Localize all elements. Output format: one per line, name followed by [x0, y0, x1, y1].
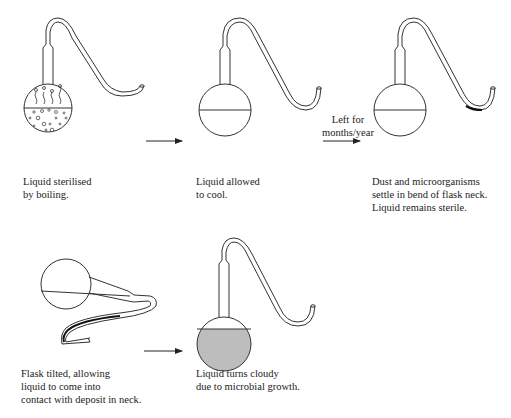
caption-tilt: Flask tilted, allowing liquid to come in… — [21, 367, 141, 406]
flask-cloudy — [197, 238, 315, 374]
caption-cool: Liquid allowed to cool. — [196, 175, 260, 201]
deposit — [466, 106, 482, 110]
caption-line: due to microbial growth. — [196, 380, 300, 393]
arrow-label-line: Left for — [322, 113, 374, 126]
caption-line: Liquid turns cloudy — [196, 367, 300, 380]
steam-icon — [35, 85, 62, 105]
caption-cloudy: Liquid turns cloudy due to microbial gro… — [196, 367, 300, 393]
arrow-label-line: months/year — [322, 126, 374, 139]
caption-line: Liquid remains sterile. — [372, 201, 487, 214]
flask-cooled — [199, 18, 321, 136]
flask-boiling — [24, 18, 144, 132]
caption-line: Flask tilted, allowing — [21, 367, 141, 380]
arrow-label-time: Left for months/year — [322, 113, 374, 139]
caption-line: Liquid sterilised — [23, 175, 92, 188]
flask-tilted — [41, 259, 156, 344]
flask-settled — [374, 18, 495, 136]
caption-settle: Dust and microorganisms settle in bend o… — [372, 175, 487, 214]
caption-line: by boiling. — [23, 188, 92, 201]
caption-line: contact with deposit in neck. — [21, 393, 141, 406]
caption-line: to cool. — [196, 188, 260, 201]
caption-line: Dust and microorganisms — [372, 175, 487, 188]
caption-line: Liquid allowed — [196, 175, 260, 188]
liquid-in-neck — [64, 316, 121, 342]
caption-line: liquid to come into — [21, 380, 141, 393]
caption-line: settle in bend of flask neck. — [372, 188, 487, 201]
caption-boil: Liquid sterilised by boiling. — [23, 175, 92, 201]
